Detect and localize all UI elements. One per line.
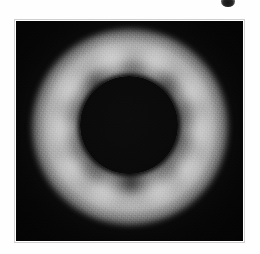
page-canvas — [0, 0, 260, 254]
coronagraph-plate — [16, 21, 243, 241]
halftone-noise-layer — [16, 21, 243, 241]
scan-artifact-mark — [221, 0, 235, 7]
